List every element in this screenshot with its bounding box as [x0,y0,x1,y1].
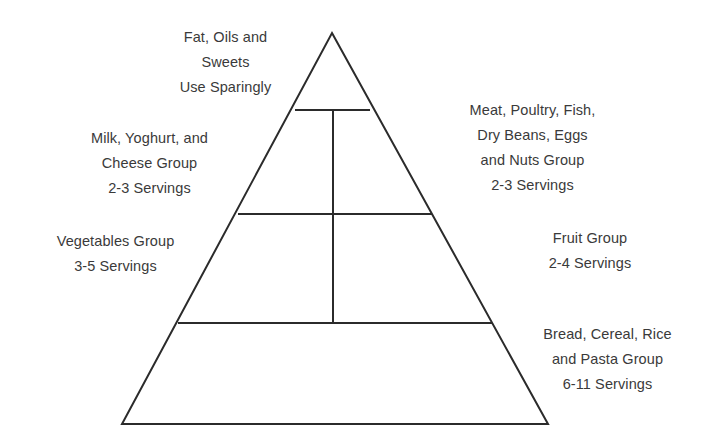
label-milk-yoghurt-cheese: Milk, Yoghurt, and Cheese Group 2-3 Serv… [42,126,257,201]
label-fruit-group: Fruit Group 2-4 Servings [495,226,685,276]
label-vegetables-servings: 3-5 Servings [8,254,223,279]
label-meat-line-2: Dry Beans, Eggs [425,123,640,148]
label-meat-line-1: Meat, Poultry, Fish, [425,98,640,123]
label-fruit-servings: 2-4 Servings [495,251,685,276]
label-milk-line-1: Milk, Yoghurt, and [42,126,257,151]
label-meat-poultry-fish: Meat, Poultry, Fish, Dry Beans, Eggs and… [425,98,640,198]
label-fats-oils-sweets: Fat, Oils and Sweets Use Sparingly [118,25,333,100]
label-milk-servings: 2-3 Servings [42,176,257,201]
food-pyramid-diagram: Fat, Oils and Sweets Use Sparingly Milk,… [0,0,722,444]
label-fats-line-1: Fat, Oils and [118,25,333,50]
label-vegetables-line-1: Vegetables Group [8,229,223,254]
label-bread-cereal-rice-pasta: Bread, Cereal, Rice and Pasta Group 6-11… [500,322,715,397]
label-fats-servings: Use Sparingly [118,75,333,100]
label-milk-line-2: Cheese Group [42,151,257,176]
label-vegetables-group: Vegetables Group 3-5 Servings [8,229,223,279]
label-meat-servings: 2-3 Servings [425,173,640,198]
label-meat-line-3: and Nuts Group [425,148,640,173]
label-fruit-line-1: Fruit Group [495,226,685,251]
label-fats-line-2: Sweets [118,50,333,75]
label-bread-servings: 6-11 Servings [500,372,715,397]
label-bread-line-2: and Pasta Group [500,347,715,372]
label-bread-line-1: Bread, Cereal, Rice [500,322,715,347]
